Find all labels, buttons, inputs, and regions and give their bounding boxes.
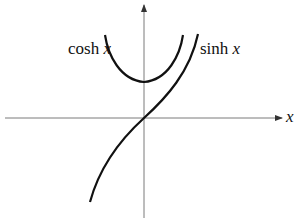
sinh-label-fn: sinh <box>200 39 228 58</box>
hyperbolic-functions-diagram: cosh x sinh x x <box>0 0 298 220</box>
x-axis-label: x <box>286 107 294 127</box>
sinh-label-var: x <box>233 39 241 58</box>
cosh-label: cosh x <box>68 39 111 59</box>
sinh-label: sinh x <box>200 39 240 59</box>
cosh-label-fn: cosh <box>68 39 99 58</box>
x-axis-label-var: x <box>286 107 294 126</box>
plot-area <box>0 0 298 220</box>
cosh-label-var: x <box>103 39 111 58</box>
